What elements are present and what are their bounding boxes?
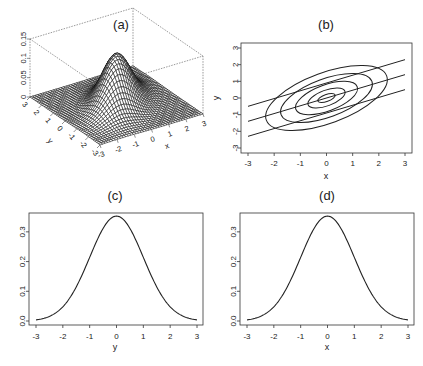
regression-line (248, 60, 405, 107)
panel-d-title: (d) (319, 188, 335, 203)
x-axis-label: y (113, 342, 118, 352)
panel-c-title: (c) (107, 188, 122, 203)
density-axes: -3-2-101230.00.10.20.3 (18, 226, 200, 341)
y-tick-label: -3 (231, 144, 240, 152)
y-tick-label: 0.2 (18, 255, 27, 267)
x-tick-label: 0 (149, 134, 156, 144)
panel-d-marginal-density: (d) -3-2-101230.00.10.20.3 x (229, 188, 414, 352)
panel-a-surface-plot: (a) 00.050.10.15-3-2-10123-3-2-10123yx (19, 8, 208, 160)
y-tick-label: 0.3 (229, 226, 238, 238)
y-tick-label: -2 (78, 139, 89, 150)
x-tick-label: 2 (377, 159, 382, 168)
panel-b-title: (b) (318, 17, 334, 32)
y-tick-label: 0 (231, 95, 240, 100)
y-tick-label: -1 (231, 111, 240, 119)
y-tick-label: 2 (32, 108, 42, 117)
density-line (247, 216, 408, 320)
panel-b-contour-plot: (b) -3-2-10123-3-2-10123 x y (211, 17, 412, 181)
x-tick-label: 0 (114, 332, 119, 341)
y-tick-label: -1 (66, 131, 77, 142)
y-tick-label: 2 (231, 62, 240, 67)
x-tick-label: 2 (168, 332, 173, 341)
contour-axes: -3-2-10123-3-2-10123 (231, 45, 408, 168)
panel-c-marginal-density: (c) -3-2-101230.00.10.20.3 y (18, 188, 203, 352)
z-tick-label: 0.15 (19, 32, 28, 47)
x-tick-label: 3 (201, 119, 208, 129)
x-tick-label: -1 (131, 139, 140, 150)
y-tick-label: -2 (231, 127, 240, 135)
x-tick-label: 3 (195, 332, 200, 341)
z-tick-label: 0 (19, 95, 28, 99)
x-tick-label: -3 (96, 149, 105, 160)
x-tick-label: 2 (379, 332, 384, 341)
x-tick-label: 1 (141, 332, 146, 341)
y-tick-label: 0.1 (18, 285, 27, 297)
y-tick-label: 3 (231, 45, 240, 50)
x-axis-label: x (164, 141, 171, 151)
x-tick-label: -2 (271, 159, 279, 168)
y-tick-label: 0.0 (229, 315, 238, 327)
x-tick-label: -1 (86, 332, 94, 341)
x-axis-label: x (325, 342, 330, 352)
y-axis-label: y (211, 95, 221, 100)
x-tick-label: 0 (325, 332, 330, 341)
x-tick-label: -3 (244, 159, 252, 168)
contour-lines (248, 52, 405, 144)
panel-a-title: (a) (113, 17, 129, 32)
surface-mesh (30, 53, 203, 145)
plot-frame (240, 213, 414, 325)
y-tick-label: 1 (43, 116, 53, 125)
x-tick-label: 3 (403, 159, 408, 168)
density-line (36, 216, 197, 320)
x-tick-label: -1 (297, 332, 305, 341)
y-axis-label: y (46, 137, 55, 146)
x-tick-label: 3 (406, 332, 411, 341)
x-tick-label: 1 (166, 129, 173, 139)
y-tick-label: 0.2 (229, 255, 238, 267)
y-tick-label: 1 (231, 79, 240, 84)
regression-line (248, 90, 405, 137)
y-tick-label: 3 (20, 100, 30, 109)
x-tick-label: -2 (114, 144, 123, 155)
density-axes: -3-2-101230.00.10.20.3 (229, 226, 411, 341)
y-tick-label: 0.0 (18, 315, 27, 327)
x-tick-label: -2 (270, 332, 278, 341)
figure: (a) 00.050.10.15-3-2-10123-3-2-10123yx (… (0, 0, 423, 366)
z-tick-label: 0.05 (19, 70, 28, 85)
x-tick-label: 1 (352, 332, 357, 341)
y-tick-label: 0 (55, 124, 65, 133)
x-tick-label: 2 (183, 124, 190, 134)
regression-line (248, 75, 405, 122)
x-axis-label: x (324, 171, 329, 181)
x-tick-label: -3 (243, 332, 251, 341)
x-tick-label: 1 (350, 159, 355, 168)
x-tick-label: -1 (297, 159, 305, 168)
x-tick-label: -2 (59, 332, 67, 341)
x-tick-label: -3 (32, 332, 40, 341)
density-curve (247, 216, 408, 320)
y-tick-label: 0.3 (18, 226, 27, 238)
density-curve (36, 216, 197, 320)
z-tick-label: 0.1 (19, 53, 28, 63)
x-tick-label: 0 (324, 159, 329, 168)
plot-frame (29, 213, 203, 325)
y-tick-label: 0.1 (229, 285, 238, 297)
